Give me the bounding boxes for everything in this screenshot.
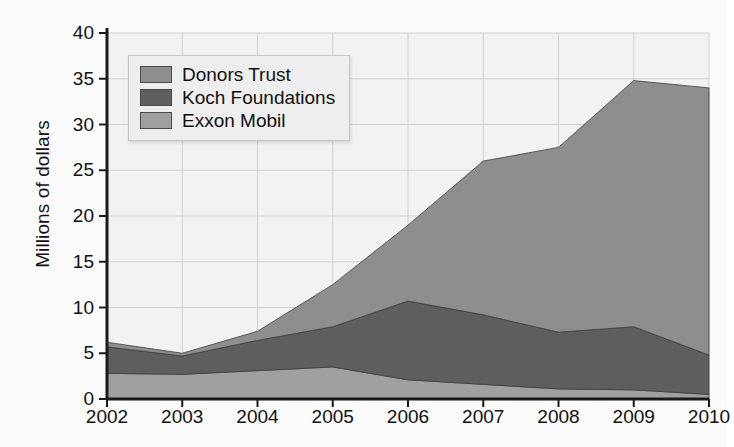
legend-swatch-icon <box>140 112 172 129</box>
legend-item-label: Koch Foundations <box>182 87 335 109</box>
chart-legend: Donors TrustKoch FoundationsExxon Mobil <box>128 55 350 141</box>
x-tick-label: 2010 <box>664 406 734 428</box>
legend-item: Exxon Mobil <box>140 109 335 132</box>
legend-item: Koch Foundations <box>140 86 335 109</box>
x-axis-tick-labels: 200220032004200520062007200820092010 <box>0 404 727 444</box>
legend-item: Donors Trust <box>140 63 335 86</box>
legend-item-label: Exxon Mobil <box>182 110 286 132</box>
legend-swatch-icon <box>140 89 172 106</box>
legend-swatch-icon <box>140 66 172 83</box>
legend-item-label: Donors Trust <box>182 64 291 86</box>
